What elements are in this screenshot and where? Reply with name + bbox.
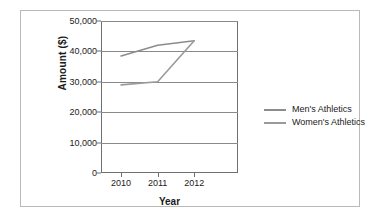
x-tick-label: 2012 [184, 178, 204, 188]
legend-label: Men's Athletics [292, 103, 352, 116]
y-axis-title: Amount ($) [57, 13, 73, 113]
legend-swatch-icon [264, 109, 286, 111]
legend-item[interactable]: Women's Athletics [264, 116, 365, 129]
x-tick-label: 2011 [148, 178, 167, 188]
chart-legend: Men's AthleticsWomen's Athletics [264, 103, 365, 129]
plot-area: 010,00020,00030,00040,00050,000 20102011… [101, 21, 238, 173]
x-tick-mark [194, 173, 195, 177]
x-tick-mark [158, 173, 159, 177]
y-tick-label: 50,000 [69, 16, 97, 26]
legend-label: Women's Athletics [292, 116, 365, 129]
legend-item[interactable]: Men's Athletics [264, 103, 365, 116]
series-lines [101, 21, 238, 173]
y-tick-label: 30,000 [69, 77, 97, 87]
y-tick-label: 20,000 [69, 107, 97, 117]
x-tick-mark [121, 173, 122, 177]
x-axis-title: Year [101, 196, 238, 207]
legend-swatch-icon [264, 122, 286, 124]
y-tick-label: 10,000 [69, 138, 97, 148]
series-line [121, 41, 194, 85]
chart-figure: Amount ($) 010,00020,00030,00040,00050,0… [20, 10, 360, 207]
y-tick-label: 0 [92, 168, 97, 178]
y-tick-label: 40,000 [69, 46, 97, 56]
x-tick-label: 2010 [111, 178, 131, 188]
